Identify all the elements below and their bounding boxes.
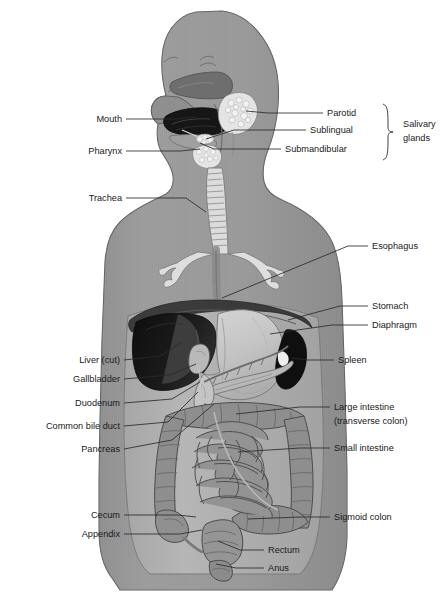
label-stomach: Stomach xyxy=(372,301,408,311)
label-mouth: Mouth xyxy=(96,114,122,124)
label-gallbladder: Gallbladder xyxy=(73,374,120,384)
label-large-intestine: Large intestine xyxy=(334,402,394,412)
salivary-glands-label-line2: glands xyxy=(403,133,430,143)
salivary-glands-label-line1: Salivary xyxy=(403,119,436,129)
label-esophagus: Esophagus xyxy=(372,241,418,251)
label-diaphragm: Diaphragm xyxy=(372,320,417,330)
label-pharynx: Pharynx xyxy=(88,146,122,156)
label-submandibular: Submandibular xyxy=(285,144,347,154)
label-small-intestine: Small intestine xyxy=(334,443,394,453)
label-spleen: Spleen xyxy=(338,355,367,365)
digestive-system-diagram: MouthPharynxTracheaLiver (cut)Gallbladde… xyxy=(0,0,447,596)
label-duodenum: Duodenum xyxy=(75,398,120,408)
label-sigmoid-colon: Sigmoid colon xyxy=(334,512,392,522)
label-common-bile-duct: Common bile duct xyxy=(46,421,120,431)
label-sublingual: Sublingual xyxy=(310,125,353,135)
label-appendix: Appendix xyxy=(82,529,121,539)
label-trachea: Trachea xyxy=(89,193,123,203)
label-cecum: Cecum xyxy=(91,510,120,520)
sublingual-gland xyxy=(196,134,214,144)
label-liver-cut: Liver (cut) xyxy=(79,355,120,365)
label-parotid: Parotid xyxy=(327,108,356,118)
label-anus: Anus xyxy=(268,563,289,573)
label-pancreas: Pancreas xyxy=(81,444,120,454)
label-rectum: Rectum xyxy=(268,545,300,555)
label-transverse-colon: (transverse colon) xyxy=(334,416,408,426)
